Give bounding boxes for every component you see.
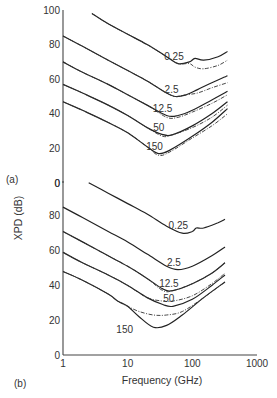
series-label: 2.5 bbox=[167, 257, 181, 268]
x-tick-label: 100 bbox=[184, 358, 201, 369]
y-tick-label: 100 bbox=[43, 5, 60, 16]
series-label: 12.5 bbox=[159, 278, 179, 289]
y-tick-label: 80 bbox=[49, 210, 61, 221]
panel-label-a: (a) bbox=[6, 174, 18, 185]
series-label: 50 bbox=[163, 293, 175, 304]
y-tick-label: 40 bbox=[49, 108, 61, 119]
x-tick-label: 1 bbox=[60, 358, 66, 369]
x-tick-label: 1000 bbox=[246, 358, 269, 369]
y-axis-title: XPD (dB) bbox=[12, 196, 24, 240]
curve-dashed-0_25-a bbox=[92, 14, 228, 69]
xpd-vs-frequency-chart: 1008060402000.252.512.550150806040200110… bbox=[0, 0, 277, 398]
y-tick-label: 80 bbox=[49, 39, 61, 50]
series-label: 150 bbox=[116, 324, 133, 335]
x-tick-label: 10 bbox=[122, 358, 134, 369]
y-tick-label: 0 bbox=[54, 178, 60, 189]
curve-2_5-b bbox=[63, 207, 225, 270]
series-label: 12.5 bbox=[153, 103, 173, 114]
y-tick-label: 60 bbox=[49, 74, 61, 85]
x-axis-title: Frequency (GHz) bbox=[122, 374, 203, 386]
y-tick-label: 60 bbox=[49, 245, 61, 256]
curve-2_5-a bbox=[63, 36, 228, 97]
y-tick-label: 20 bbox=[49, 143, 61, 154]
curve-dashed-12_5-a bbox=[63, 62, 228, 118]
curve-12_5-a bbox=[63, 62, 228, 117]
panel-label-b: (b) bbox=[14, 378, 26, 389]
curve-50-a bbox=[63, 84, 228, 135]
series-label: 0.25 bbox=[164, 51, 184, 62]
curve-0_25-a bbox=[92, 14, 228, 64]
series-label: 2.5 bbox=[165, 84, 179, 95]
series-label: 50 bbox=[153, 122, 165, 133]
series-label: 150 bbox=[146, 141, 163, 152]
series-label: 0.25 bbox=[169, 220, 189, 231]
curve-0_25-b bbox=[89, 183, 225, 234]
y-tick-label: 40 bbox=[49, 280, 61, 291]
y-tick-label: 20 bbox=[49, 315, 61, 326]
